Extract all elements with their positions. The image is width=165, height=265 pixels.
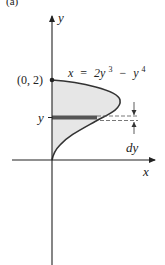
- x-axis-label: x: [142, 164, 149, 179]
- horizontal-strip: [52, 116, 97, 120]
- eq-term2: y: [132, 66, 139, 80]
- eq-term2-exp: 4: [142, 65, 146, 74]
- eq-minus: −: [119, 66, 126, 80]
- eq-equals: =: [80, 66, 87, 80]
- curve-equation: x = 2y 3 − y 4: [67, 61, 146, 80]
- eq-term1: 2y: [94, 66, 106, 80]
- y-axis-label: y: [56, 10, 64, 25]
- dy-label: dy: [126, 140, 139, 155]
- strip-y-label: y: [36, 110, 44, 125]
- panel-label: (a): [6, 0, 19, 8]
- point-0-2: [50, 78, 55, 83]
- eq-lhs: x: [67, 66, 74, 80]
- point-label: (0, 2): [17, 73, 43, 87]
- region-diagram: (a) y x (0, 2) x = 2y 3 − y 4 y dy: [0, 0, 165, 265]
- eq-term1-exp: 3: [108, 65, 112, 74]
